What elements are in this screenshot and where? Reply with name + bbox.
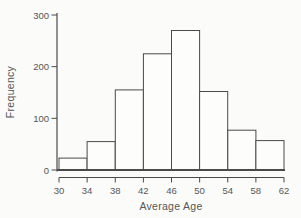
y-axis-title: Frequency xyxy=(4,65,16,118)
y-tick-label: 200 xyxy=(33,61,49,72)
x-tick-label: 50 xyxy=(194,185,205,196)
x-tick-label: 54 xyxy=(222,185,233,196)
histogram-figure: 0100200300303438424650545862 Frequency A… xyxy=(0,0,301,218)
x-tick-label: 34 xyxy=(82,185,93,196)
x-axis-title: Average Age xyxy=(139,200,202,212)
y-tick-label: 0 xyxy=(44,165,49,176)
histogram-bar xyxy=(256,141,284,170)
histogram-bar xyxy=(200,92,228,171)
x-tick-label: 62 xyxy=(279,185,290,196)
x-tick-label: 58 xyxy=(251,185,262,196)
y-tick-label: 300 xyxy=(33,10,49,21)
x-tick-label: 38 xyxy=(110,185,121,196)
histogram-bar xyxy=(115,90,143,170)
x-tick-label: 46 xyxy=(166,185,177,196)
histogram-chart: 0100200300303438424650545862 Frequency A… xyxy=(0,0,301,218)
y-tick-label: 100 xyxy=(33,113,49,124)
histogram-bar xyxy=(228,130,256,170)
histogram-bar xyxy=(59,158,87,170)
x-tick-label: 30 xyxy=(54,185,65,196)
bars-group xyxy=(59,31,284,171)
histogram-bar xyxy=(172,31,200,171)
histogram-bar xyxy=(87,142,115,170)
histogram-bar xyxy=(143,54,171,170)
x-tick-label: 42 xyxy=(138,185,149,196)
